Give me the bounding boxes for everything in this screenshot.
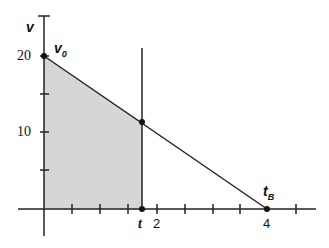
t-label: t — [138, 216, 142, 232]
tB-label: tB — [263, 183, 274, 202]
point-v0 — [41, 53, 47, 59]
velocity-time-graph — [0, 0, 329, 248]
v0-label: v0 — [54, 40, 67, 59]
point-t-line — [139, 119, 145, 125]
tick-label-20: 20 — [17, 48, 31, 64]
tick-label-4: 4 — [263, 216, 270, 231]
shaded-area — [44, 56, 142, 209]
y-axis-label: v — [26, 19, 34, 35]
point-tB — [264, 206, 270, 212]
tick-label-10: 10 — [17, 124, 31, 140]
tick-label-2: 2 — [153, 216, 160, 231]
point-t-axis — [139, 206, 145, 212]
